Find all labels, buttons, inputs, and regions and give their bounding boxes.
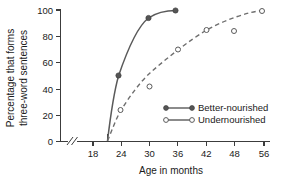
data-point-under-36	[176, 47, 181, 52]
data-point-under-42	[204, 28, 209, 33]
y-axis-title-line1: Percentage that forms	[5, 29, 16, 127]
y-tick-label-60: 60	[42, 57, 53, 68]
y-tick-label-20: 20	[42, 110, 53, 121]
data-point-better-36	[173, 8, 178, 13]
legend-marker-under-left	[164, 118, 169, 123]
x-axis-title: Age in months	[139, 165, 203, 176]
chart-plot-area: 100 80 60 40 20 0 18 24 30 36 42 48 56 A…	[0, 0, 282, 180]
y-tick-label-0: 0	[48, 136, 53, 147]
chart-container: 100 80 60 40 20 0 18 24 30 36 42 48 56 A…	[0, 0, 282, 180]
x-tick-label-56: 56	[259, 148, 270, 159]
x-tick-label-42: 42	[201, 148, 212, 159]
data-point-under-56	[260, 9, 265, 14]
y-axis-title-line2: three-word sentences	[18, 30, 29, 126]
x-tick-label-24: 24	[116, 148, 127, 159]
x-axis-ticks	[93, 134, 264, 146]
data-point-better-24	[116, 73, 121, 78]
legend-marker-under-right	[190, 118, 195, 123]
legend-marker-better-left	[164, 106, 169, 111]
series-points-undernourished	[118, 9, 265, 113]
legend-label-better-nourished: Better-nourished	[198, 102, 268, 113]
legend-label-undernourished: Undernourished	[198, 114, 266, 125]
y-tick-label-80: 80	[42, 31, 53, 42]
x-tick-label-48: 48	[229, 148, 240, 159]
y-tick-label-100: 100	[37, 5, 53, 16]
legend-marker-better-right	[190, 106, 195, 111]
y-axis-ticks	[56, 10, 61, 142]
data-point-under-30	[147, 84, 152, 89]
y-tick-label-40: 40	[42, 84, 53, 95]
x-tick-label-30: 30	[144, 148, 155, 159]
series-points-better-nourished	[116, 8, 178, 78]
x-tick-label-36: 36	[173, 148, 184, 159]
data-point-under-24	[118, 108, 123, 113]
chart-legend: Better-nourished Undernourished	[164, 102, 269, 125]
data-point-under-48	[232, 29, 237, 34]
x-tick-label-18: 18	[88, 148, 99, 159]
data-point-better-30	[146, 15, 151, 20]
